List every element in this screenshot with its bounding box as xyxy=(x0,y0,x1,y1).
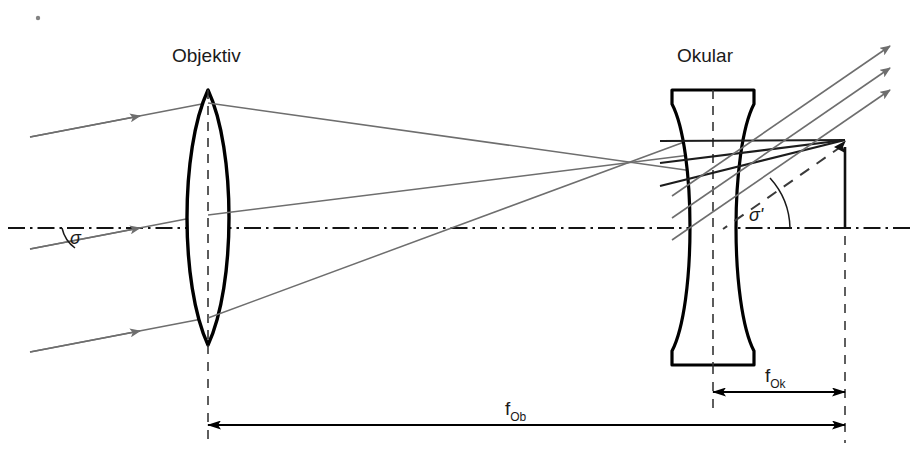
angle-sigma-label: σ xyxy=(70,228,82,248)
incoming-ray-bottom-arrow xyxy=(30,331,140,352)
incoming-ray-middle-arrow xyxy=(30,228,140,249)
incoming-ray-top-arrow xyxy=(30,116,140,137)
intermediate-ray-top xyxy=(208,103,714,174)
optics-diagram: σ Objektiv Okular xyxy=(0,0,923,463)
dimension-focal-objective: fOb xyxy=(208,398,845,425)
page-speck xyxy=(36,16,40,20)
intermediate-ray-bundle xyxy=(208,103,714,318)
ocular-label: Okular xyxy=(677,45,734,66)
intermediate-ray-bottom xyxy=(208,131,714,318)
f-ok-label: fOk xyxy=(765,365,787,391)
ocular-lens-body xyxy=(672,90,754,365)
angle-sigma-prime-label: σ' xyxy=(749,205,764,225)
objective-label: Objektiv xyxy=(172,45,241,66)
intermediate-ray-middle xyxy=(208,152,714,215)
objective-lens xyxy=(187,90,229,345)
ocular-lens xyxy=(672,90,754,365)
optics-diagram-canvas: σ Objektiv Okular xyxy=(0,0,923,463)
f-ob-label: fOb xyxy=(505,398,527,424)
dimension-focal-ocular: fOk xyxy=(713,365,845,392)
